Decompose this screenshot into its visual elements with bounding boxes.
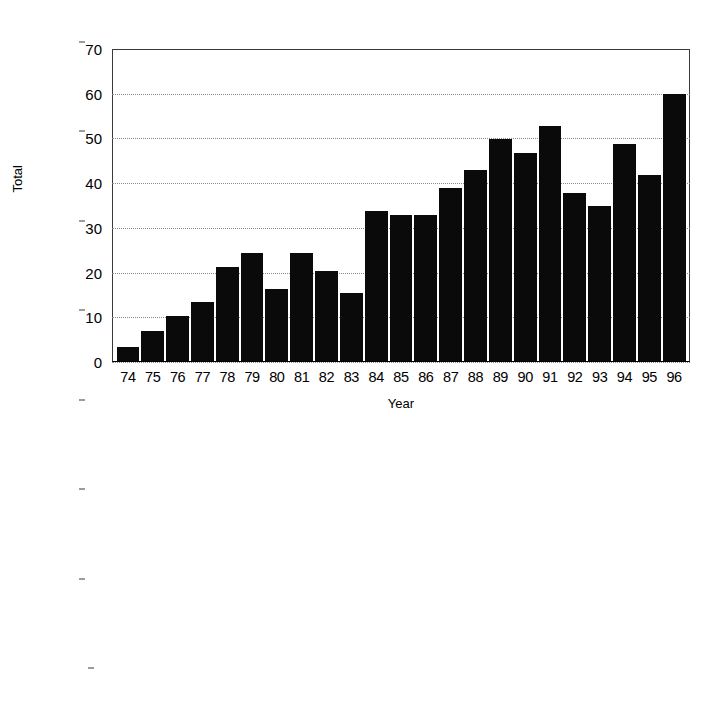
x-axis-tick-label: 80 bbox=[264, 369, 289, 386]
y-axis-tick-label: 0 bbox=[94, 355, 102, 370]
bar bbox=[141, 331, 164, 360]
x-axis-tick-label: 74 bbox=[116, 369, 141, 386]
bar bbox=[290, 253, 313, 360]
x-axis-tick-label: 81 bbox=[289, 369, 314, 386]
y-axis-tick-mark bbox=[79, 42, 85, 43]
bar bbox=[514, 153, 537, 361]
bar bbox=[613, 144, 636, 361]
x-axis-tick-label: 76 bbox=[165, 369, 190, 386]
bar bbox=[439, 188, 462, 360]
x-axis-tick-label: 89 bbox=[488, 369, 513, 386]
bar bbox=[216, 267, 239, 361]
bar bbox=[265, 289, 288, 361]
x-axis-tick-label: 90 bbox=[513, 369, 538, 386]
chart-figure-top: Total 010203040506070 747576777879808182… bbox=[0, 0, 718, 425]
x-axis-tick-label: 79 bbox=[240, 369, 265, 386]
x-axis-tick-label: 83 bbox=[339, 369, 364, 386]
bar bbox=[464, 170, 487, 360]
y-axis-tick-mark bbox=[79, 220, 85, 221]
x-axis-tick-label: 86 bbox=[413, 369, 438, 386]
x-axis-tick-label: 88 bbox=[463, 369, 488, 386]
x-axis-tick-label: 93 bbox=[587, 369, 612, 386]
bar bbox=[489, 139, 512, 360]
bar bbox=[365, 211, 388, 361]
bar bbox=[414, 215, 437, 360]
x-axis-tick-label: 92 bbox=[562, 369, 587, 386]
x-axis-tick-label: 95 bbox=[637, 369, 662, 386]
y-axis-tick-label: 40 bbox=[85, 176, 102, 191]
y-axis-tick-label: 10 bbox=[85, 310, 102, 325]
y-axis-tick-label: 60 bbox=[85, 86, 102, 101]
bar bbox=[241, 253, 264, 360]
bar bbox=[663, 94, 686, 360]
bar bbox=[588, 206, 611, 360]
y-axis-tick-label: 30 bbox=[85, 220, 102, 235]
x-axis-title-top: Year bbox=[112, 396, 690, 411]
x-axis-tick-label: 91 bbox=[538, 369, 563, 386]
y-axis-tick-mark bbox=[79, 310, 85, 311]
x-axis-tick-label: 78 bbox=[215, 369, 240, 386]
y-axis-tick-label: 50 bbox=[85, 131, 102, 146]
plot-area-top bbox=[112, 49, 690, 362]
y-axis-tick-mark bbox=[79, 399, 85, 400]
bar bbox=[315, 271, 338, 360]
x-axis-tick-label: 84 bbox=[364, 369, 389, 386]
x-axis-tick-label: 77 bbox=[190, 369, 215, 386]
x-axis-tick-label: 82 bbox=[314, 369, 339, 386]
bar bbox=[117, 347, 140, 360]
bar bbox=[638, 175, 661, 361]
y-axis-tick-label: 20 bbox=[85, 265, 102, 280]
x-axis-tick-label: 75 bbox=[140, 369, 165, 386]
bar bbox=[390, 215, 413, 360]
x-axis-tick-label: 85 bbox=[389, 369, 414, 386]
bar bbox=[539, 126, 562, 361]
bar-series-top bbox=[114, 51, 689, 361]
y-axis-tick-mark bbox=[79, 131, 85, 132]
bar bbox=[563, 193, 586, 361]
bar bbox=[191, 302, 214, 360]
bar bbox=[166, 316, 189, 361]
x-axis-tick-label: 87 bbox=[438, 369, 463, 386]
x-axis-tick-label: 94 bbox=[612, 369, 637, 386]
x-axis-tick-labels-top: 7475767778798081828384858687888990919293… bbox=[112, 369, 690, 386]
gridline bbox=[112, 362, 690, 363]
y-axis-tick-label: 70 bbox=[85, 42, 102, 57]
chart-figure-bottom: Total 203040506070 bbox=[0, 432, 718, 703]
y-axis-title-top: Total bbox=[10, 165, 25, 192]
x-axis-tick-label: 96 bbox=[662, 369, 687, 386]
y-axis-tick-labels-top: 010203040506070 bbox=[62, 49, 102, 362]
bar bbox=[340, 293, 363, 360]
